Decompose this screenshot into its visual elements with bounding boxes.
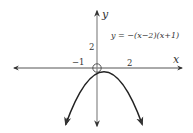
tick-label-neg1: −1 [72, 57, 85, 67]
x-axis-label: x [173, 53, 180, 66]
y-axis-label: y [101, 8, 109, 21]
tick-label-y2: 2 [89, 42, 94, 52]
parabola-graph: y x y = −(x−2)(x+1) −1 2 2 [0, 0, 193, 133]
equation-label: y = −(x−2)(x+1) [110, 31, 179, 40]
parabola-curve [66, 72, 142, 125]
tick-label-x2: 2 [127, 58, 132, 68]
